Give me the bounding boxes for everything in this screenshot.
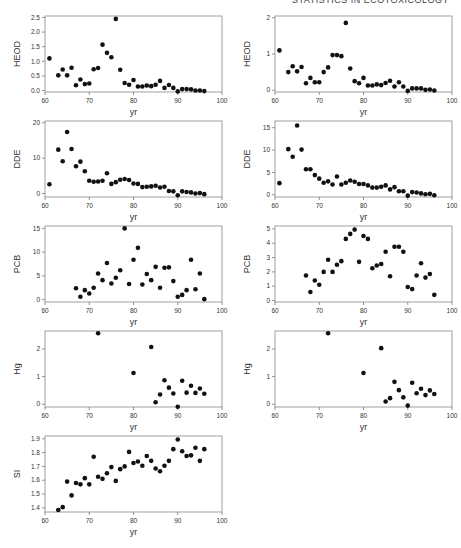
data-point — [193, 391, 198, 396]
data-point — [330, 182, 335, 187]
x-tick-label: 100 — [447, 202, 458, 209]
data-point — [167, 83, 172, 88]
y-tick-label: 0 — [36, 190, 40, 197]
x-tick-label: 70 — [316, 97, 324, 104]
data-point — [410, 287, 415, 292]
data-point — [295, 69, 300, 74]
y-axis-label: Hg — [12, 363, 22, 375]
data-point — [344, 180, 349, 185]
data-point — [313, 80, 318, 85]
y-axis-label: HEOD — [12, 41, 22, 68]
data-point — [388, 78, 393, 83]
x-tick-label: 90 — [174, 412, 182, 419]
data-point — [295, 123, 300, 128]
y-tick-label: 0.0 — [31, 87, 40, 94]
chart-hg-right: 60708090100012yrHg — [230, 325, 461, 435]
data-point — [410, 380, 415, 385]
x-tick-label: 90 — [174, 202, 182, 209]
data-point — [162, 266, 167, 271]
data-point — [158, 469, 163, 474]
x-tick-label: 60 — [41, 97, 49, 104]
y-tick-label: 1 — [266, 282, 270, 289]
data-point — [379, 184, 384, 189]
data-point — [277, 181, 282, 186]
data-point — [198, 271, 203, 276]
data-point — [410, 86, 415, 91]
y-tick-label: 1 — [36, 373, 40, 380]
data-point — [140, 84, 145, 89]
y-tick-label: 1.9 — [31, 435, 40, 442]
data-point — [60, 67, 65, 72]
data-point — [401, 84, 406, 89]
data-point — [100, 278, 105, 283]
data-point — [189, 190, 194, 195]
data-point — [122, 81, 127, 86]
y-axis-label: DDE — [12, 149, 22, 168]
chart-pcb-right: 60708090100012345yrPCB — [230, 220, 461, 330]
x-tick-label: 90 — [404, 202, 412, 209]
data-point — [144, 454, 149, 459]
data-point — [180, 449, 185, 454]
x-tick-label: 70 — [316, 307, 324, 314]
data-point — [122, 177, 127, 182]
data-point — [348, 232, 353, 237]
x-tick-label: 90 — [404, 307, 412, 314]
data-point — [149, 278, 154, 283]
data-point — [383, 399, 388, 404]
data-point — [202, 447, 207, 452]
x-tick-label: 60 — [271, 97, 279, 104]
data-point — [202, 391, 207, 396]
data-point — [388, 187, 393, 192]
data-point — [397, 244, 402, 249]
data-point — [96, 271, 101, 276]
data-point — [167, 265, 172, 270]
y-tick-label: 4 — [266, 239, 270, 246]
data-point — [397, 388, 402, 393]
data-point — [299, 147, 304, 152]
data-point — [47, 56, 52, 61]
data-point — [100, 477, 105, 482]
data-point — [69, 65, 74, 70]
data-point — [392, 380, 397, 385]
data-point — [414, 273, 419, 278]
data-point — [131, 181, 136, 186]
data-point — [65, 479, 70, 484]
y-tick-label: 1 — [266, 373, 270, 380]
data-point — [175, 404, 180, 409]
data-point — [122, 226, 127, 231]
x-tick-label: 70 — [86, 97, 94, 104]
data-point — [171, 391, 176, 396]
data-point — [167, 189, 172, 194]
data-point — [299, 65, 304, 70]
data-point — [374, 82, 379, 87]
plot-frame — [45, 331, 222, 407]
data-point — [74, 83, 79, 88]
data-point — [74, 481, 79, 486]
y-axis-label: HEOD — [242, 41, 252, 68]
x-tick-label: 60 — [41, 412, 49, 419]
data-point — [366, 183, 371, 188]
data-point — [189, 257, 194, 262]
data-point — [339, 182, 344, 187]
data-point — [432, 293, 437, 298]
x-tick-label: 100 — [447, 307, 458, 314]
data-point — [65, 130, 70, 135]
data-point — [286, 147, 291, 152]
y-axis-label: PCB — [242, 255, 252, 274]
data-point — [105, 471, 110, 476]
y-tick-label: 2 — [36, 345, 40, 352]
data-point — [153, 265, 158, 270]
chart-si-left: 607080901001.41.51.61.71.81.9yrSI — [0, 430, 230, 540]
data-point — [339, 54, 344, 59]
data-point — [153, 466, 158, 471]
data-point — [308, 76, 313, 81]
data-point — [198, 459, 203, 464]
x-tick-label: 70 — [86, 307, 94, 314]
data-point — [118, 467, 123, 472]
data-point — [189, 87, 194, 92]
data-point — [388, 396, 393, 401]
data-point — [184, 454, 189, 459]
data-point — [414, 190, 419, 195]
data-point — [428, 192, 433, 197]
data-point — [78, 482, 83, 487]
